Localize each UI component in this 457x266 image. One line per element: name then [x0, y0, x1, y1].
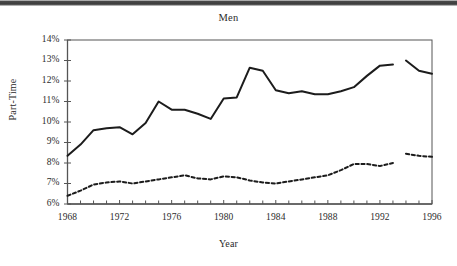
x-tick-label: 1984 [254, 212, 298, 222]
x-tick-label: 1972 [98, 212, 142, 222]
y-tick-label: 14% [26, 34, 60, 44]
x-tick-label: 1992 [358, 212, 402, 222]
y-tick-label: 12% [26, 75, 60, 85]
x-tick-label: 1968 [46, 212, 90, 222]
plot-canvas [0, 0, 457, 266]
x-tick-label: 1996 [410, 212, 454, 222]
y-tick-label: 8% [26, 157, 60, 167]
x-tick-label: 1976 [150, 212, 194, 222]
y-tick-label: 7% [26, 177, 60, 187]
y-tick-label: 13% [26, 54, 60, 64]
x-tick-label: 1980 [202, 212, 246, 222]
y-tick-label: 9% [26, 136, 60, 146]
data-series [68, 61, 433, 196]
y-tick-label: 6% [26, 198, 60, 208]
y-tick-label: 11% [26, 95, 60, 105]
y-tick-label: 10% [26, 116, 60, 126]
x-tick-label: 1988 [306, 212, 350, 222]
chart-figure: Men Part-Time Year 6%7%8%9%10%11%12%13%1… [0, 0, 457, 266]
